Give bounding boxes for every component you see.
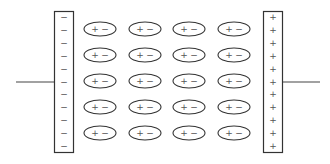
polarized-molecule: +− — [84, 22, 116, 36]
negative-charge-sign: − — [60, 51, 68, 61]
molecule-positive-sign: + — [136, 76, 144, 86]
negative-charge-sign: − — [60, 89, 68, 99]
molecule-negative-sign: − — [235, 24, 243, 34]
negative-charge-sign: − — [60, 77, 68, 87]
polarized-molecule: +− — [173, 100, 205, 114]
negative-charge-sign: − — [60, 25, 68, 35]
molecule-positive-sign: + — [136, 50, 144, 60]
molecule-positive-sign: + — [225, 76, 233, 86]
positive-charge-sign: + — [269, 51, 277, 61]
negative-charge-sign: − — [60, 128, 68, 138]
molecule-negative-sign: − — [101, 102, 109, 112]
polarized-molecule: +− — [129, 74, 161, 88]
molecule-positive-sign: + — [180, 102, 188, 112]
polarized-molecule: +− — [173, 48, 205, 62]
positive-charge-sign: + — [269, 25, 277, 35]
molecule-negative-sign: − — [190, 76, 198, 86]
right-plate: +++++++++++ — [264, 12, 283, 153]
polarized-molecule: +− — [129, 100, 161, 114]
molecule-positive-sign: + — [180, 128, 188, 138]
molecule-negative-sign: − — [146, 24, 154, 34]
positive-charge-sign: + — [269, 115, 277, 125]
negative-charge-sign: − — [60, 115, 68, 125]
molecule-positive-sign: + — [225, 24, 233, 34]
left-plate: −−−−−−−−−−− — [55, 12, 74, 153]
polarized-molecule: +− — [84, 48, 116, 62]
positive-charge-sign: + — [269, 64, 277, 74]
positive-charge-sign: + — [269, 102, 277, 112]
polarized-molecule: +− — [218, 22, 250, 36]
positive-charge-sign: + — [269, 128, 277, 138]
polarized-molecule: +− — [84, 100, 116, 114]
molecule-positive-sign: + — [136, 24, 144, 34]
left-plate-charges: −−−−−−−−−−− — [60, 12, 68, 151]
negative-charge-sign: − — [60, 141, 68, 151]
polarized-molecule: +− — [173, 74, 205, 88]
molecule-negative-sign: − — [146, 102, 154, 112]
molecule-negative-sign: − — [146, 76, 154, 86]
molecule-negative-sign: − — [235, 76, 243, 86]
negative-charge-sign: − — [60, 38, 68, 48]
molecule-positive-sign: + — [91, 50, 99, 60]
molecule-negative-sign: − — [146, 128, 154, 138]
polarized-molecule: +− — [218, 100, 250, 114]
molecule-negative-sign: − — [101, 76, 109, 86]
polarized-molecule: +− — [84, 74, 116, 88]
molecule-negative-sign: − — [190, 24, 198, 34]
dielectric-molecules: +−+−+−+−+−+−+−+−+−+−+−+−+−+−+−+−+−+−+−+− — [84, 22, 250, 140]
molecule-positive-sign: + — [91, 76, 99, 86]
positive-charge-sign: + — [269, 77, 277, 87]
molecule-positive-sign: + — [136, 102, 144, 112]
molecule-positive-sign: + — [136, 128, 144, 138]
molecule-positive-sign: + — [180, 50, 188, 60]
polarized-molecule: +− — [129, 22, 161, 36]
positive-charge-sign: + — [269, 38, 277, 48]
negative-charge-sign: − — [60, 102, 68, 112]
positive-charge-sign: + — [269, 89, 277, 99]
negative-charge-sign: − — [60, 12, 68, 22]
polarized-molecule: +− — [129, 48, 161, 62]
molecule-positive-sign: + — [225, 128, 233, 138]
positive-charge-sign: + — [269, 141, 277, 151]
polarized-molecule: +− — [173, 126, 205, 140]
molecule-positive-sign: + — [225, 50, 233, 60]
polarized-molecule: +− — [218, 48, 250, 62]
polarized-molecule: +− — [129, 126, 161, 140]
molecule-negative-sign: − — [235, 50, 243, 60]
molecule-positive-sign: + — [225, 102, 233, 112]
right-plate-charges: +++++++++++ — [269, 12, 277, 151]
molecule-negative-sign: − — [146, 50, 154, 60]
molecule-negative-sign: − — [101, 128, 109, 138]
polarized-molecule: +− — [84, 126, 116, 140]
polarized-molecule: +− — [218, 126, 250, 140]
molecule-positive-sign: + — [91, 24, 99, 34]
molecule-negative-sign: − — [101, 24, 109, 34]
molecule-positive-sign: + — [91, 102, 99, 112]
molecule-positive-sign: + — [180, 76, 188, 86]
negative-charge-sign: − — [60, 64, 68, 74]
capacitor-diagram: −−−−−−−−−−− +++++++++++ +−+−+−+−+−+−+−+−… — [0, 0, 330, 164]
molecule-positive-sign: + — [91, 128, 99, 138]
molecule-positive-sign: + — [180, 24, 188, 34]
molecule-negative-sign: − — [190, 50, 198, 60]
molecule-negative-sign: − — [190, 128, 198, 138]
polarized-molecule: +− — [173, 22, 205, 36]
molecule-negative-sign: − — [235, 102, 243, 112]
molecule-negative-sign: − — [101, 50, 109, 60]
polarized-molecule: +− — [218, 74, 250, 88]
molecule-negative-sign: − — [235, 128, 243, 138]
molecule-negative-sign: − — [190, 102, 198, 112]
positive-charge-sign: + — [269, 12, 277, 22]
